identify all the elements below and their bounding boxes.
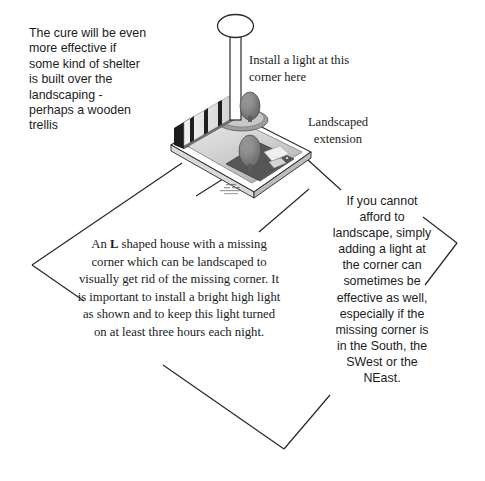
callout-cure-note: The cure will be even more effective if … [29,26,147,134]
bracket-bottom-right [284,395,330,449]
house-note-body: shaped house with a missing corner which… [78,237,281,339]
label-landscaped-extension: Landscaped extension [288,114,388,148]
callout-install-light: Install a light at this corner here [249,52,374,86]
isometric-house-illustration [168,12,314,202]
house-note-prefix: An [91,237,110,251]
bracket-bottom-left [163,365,284,449]
lamp-head-icon [218,15,254,38]
lamp-post [230,34,241,120]
callout-afford-alternative: If you cannot afford to landscape, simpl… [330,193,434,386]
diagram-canvas: The cure will be even more effective if … [0,0,485,481]
callout-house-description: An L shaped house with a missing corner … [76,236,282,342]
